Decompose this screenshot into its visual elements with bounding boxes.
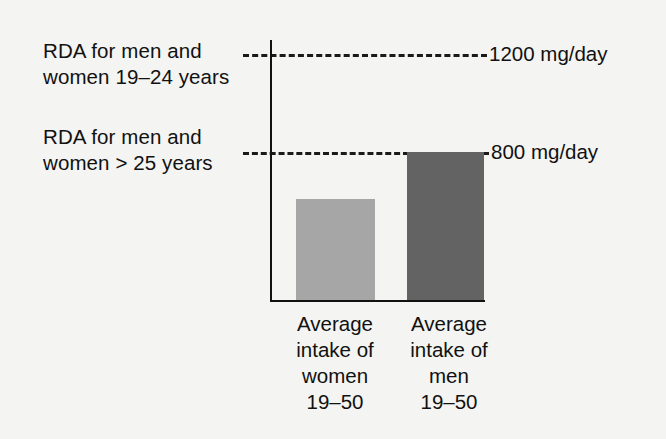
- reference-label-1200: RDA for men and women 19–24 years: [43, 38, 229, 90]
- reference-label-800-line2: women > 25 years: [43, 150, 213, 176]
- reference-value-1200: 1200 mg/day: [489, 42, 608, 66]
- category-label-women-line1: Average: [276, 311, 394, 337]
- bar-men: [407, 152, 484, 300]
- category-label-women-line2: intake of: [276, 337, 394, 363]
- category-label-men: Average intake of men 19–50: [390, 311, 508, 415]
- bar-women: [296, 199, 375, 300]
- category-label-men-line4: 19–50: [390, 389, 508, 415]
- reference-label-800-line1: RDA for men and: [43, 124, 213, 150]
- category-label-women-line3: women: [276, 363, 394, 389]
- category-label-men-line2: intake of: [390, 337, 508, 363]
- category-label-men-line3: men: [390, 363, 508, 389]
- reference-value-800: 800 mg/day: [491, 140, 598, 164]
- reference-label-1200-line1: RDA for men and: [43, 38, 229, 64]
- y-axis-line: [270, 40, 272, 302]
- reference-label-1200-line2: women 19–24 years: [43, 64, 229, 90]
- category-label-women: Average intake of women 19–50: [276, 311, 394, 415]
- calcium-intake-bar-chart: RDA for men and women 19–24 years 1200 m…: [0, 0, 666, 439]
- category-label-men-line1: Average: [390, 311, 508, 337]
- reference-line-1200: [243, 54, 487, 57]
- x-axis-line: [270, 300, 485, 302]
- reference-label-800: RDA for men and women > 25 years: [43, 124, 213, 176]
- category-label-women-line4: 19–50: [276, 389, 394, 415]
